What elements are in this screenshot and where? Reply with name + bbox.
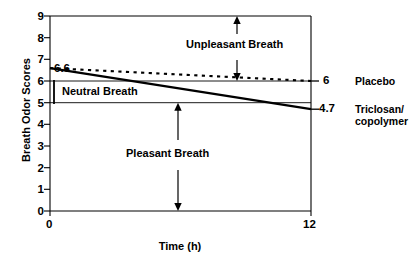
start-value-label: 6.6	[54, 63, 70, 75]
endpoint-leader-ticks	[311, 81, 319, 109]
breath-odor-score-chart: Breath Odor Scores Time (h) 9 8 7 6 5 4 …	[0, 0, 416, 269]
zone-label-unpleasant: Unpleasant Breath	[184, 38, 285, 50]
y-axis-ticks	[44, 16, 50, 211]
series-name-triclosan: Triclosan/ copolymer	[355, 103, 408, 128]
x-axis-ticks	[50, 211, 311, 216]
zone-label-neutral: Neutral Breath	[60, 85, 140, 97]
triclosan-endpoint-value: 4.7	[319, 103, 335, 115]
placebo-endpoint-value: 6	[323, 75, 329, 87]
series-name-placebo: Placebo	[355, 75, 395, 87]
zone-label-pleasant: Pleasant Breath	[124, 147, 211, 159]
